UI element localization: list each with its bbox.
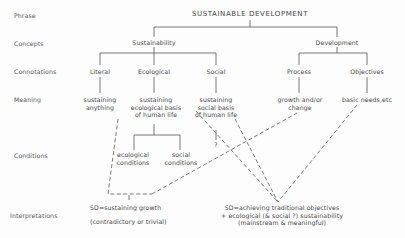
meaning-ecological-line3: of human life xyxy=(131,111,182,119)
condition-ecological-line1: ecological xyxy=(117,151,150,159)
concept-development: Development xyxy=(316,39,359,47)
condition-social: social conditions xyxy=(165,151,198,166)
row-label-interpretations: Interpretations xyxy=(10,212,57,220)
row-label-meaning: Meaning xyxy=(14,96,41,104)
phrase-sustainable-development: SUSTAINABLE DEVELOPMENT xyxy=(192,11,308,19)
meaning-ecological-line2: ecological basis xyxy=(131,104,182,112)
interpretation-growth-line2: (contradictory or trivial) xyxy=(90,218,167,226)
meaning-process: growth and/or change xyxy=(278,96,323,111)
connotation-ecological: Ecological xyxy=(138,68,170,76)
meaning-process-line1: growth and/or xyxy=(278,96,323,104)
meaning-social-line1: sustaining xyxy=(195,96,237,104)
dashed-path-ecological xyxy=(196,111,278,202)
interpretation-growth: SD=sustaining growth (contradictory or t… xyxy=(90,204,167,225)
interpretation-traditional-line1: SD=achieving traditional objectives xyxy=(221,204,343,212)
condition-social-line2: conditions xyxy=(165,159,198,167)
condition-ecological-line2: conditions xyxy=(117,159,150,167)
meaning-social: sustaining social basis of human life xyxy=(195,96,237,119)
row-label-connotations: Connotations xyxy=(14,68,56,76)
interpretation-growth-line1: SD=sustaining growth xyxy=(90,204,167,212)
dashed-path-social xyxy=(235,119,278,202)
connotation-social: Social xyxy=(207,68,226,76)
condition-ecological: ecological conditions xyxy=(117,151,150,166)
connotation-objectives: Objectives xyxy=(350,68,384,76)
meaning-literal: sustaining anything xyxy=(84,96,117,111)
meaning-process-line2: change xyxy=(278,104,323,112)
row-label-phrase: Phrase xyxy=(14,12,36,20)
connotation-literal: Literal xyxy=(90,68,110,76)
connotation-process: Process xyxy=(287,68,311,76)
meaning-ecological-line1: sustaining xyxy=(131,96,182,104)
row-label-conditions: Conditions xyxy=(14,152,48,160)
condition-social-unknown: ? xyxy=(214,141,217,149)
sustainable-development-diagram: Phrase Concepts Connotations Meaning Con… xyxy=(0,0,405,238)
interpretation-traditional-line3: (mainstream & meaningful) xyxy=(221,219,343,227)
meaning-objectives-line1: basic needs,etc xyxy=(342,96,392,104)
meaning-literal-line2: anything xyxy=(84,104,117,112)
meaning-ecological: sustaining ecological basis of human lif… xyxy=(131,96,182,119)
row-label-concepts: Concepts xyxy=(14,40,44,48)
connector-lines xyxy=(0,0,405,238)
meaning-social-line3: of human life xyxy=(195,111,237,119)
interpretation-traditional-line2: + ecological (& social ?) sustainability xyxy=(221,212,343,220)
concept-sustainability: Sustainability xyxy=(132,39,175,47)
dashed-path-objectives xyxy=(278,105,357,202)
meaning-social-line2: social basis xyxy=(195,104,237,112)
meaning-objectives: basic needs,etc xyxy=(342,96,392,104)
interpretation-traditional: SD=achieving traditional objectives + ec… xyxy=(221,204,343,227)
condition-social-line1: social xyxy=(165,151,198,159)
meaning-literal-line1: sustaining xyxy=(84,96,117,104)
